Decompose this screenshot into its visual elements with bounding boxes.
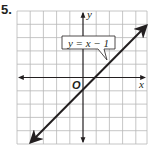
y-axis-label: y: [86, 8, 92, 20]
x-axis-label: x: [138, 78, 144, 90]
equation-label: y = x − 1: [67, 37, 109, 49]
coordinate-plane: y = x − 1 y x O: [0, 0, 150, 152]
origin-label: O: [72, 79, 81, 91]
